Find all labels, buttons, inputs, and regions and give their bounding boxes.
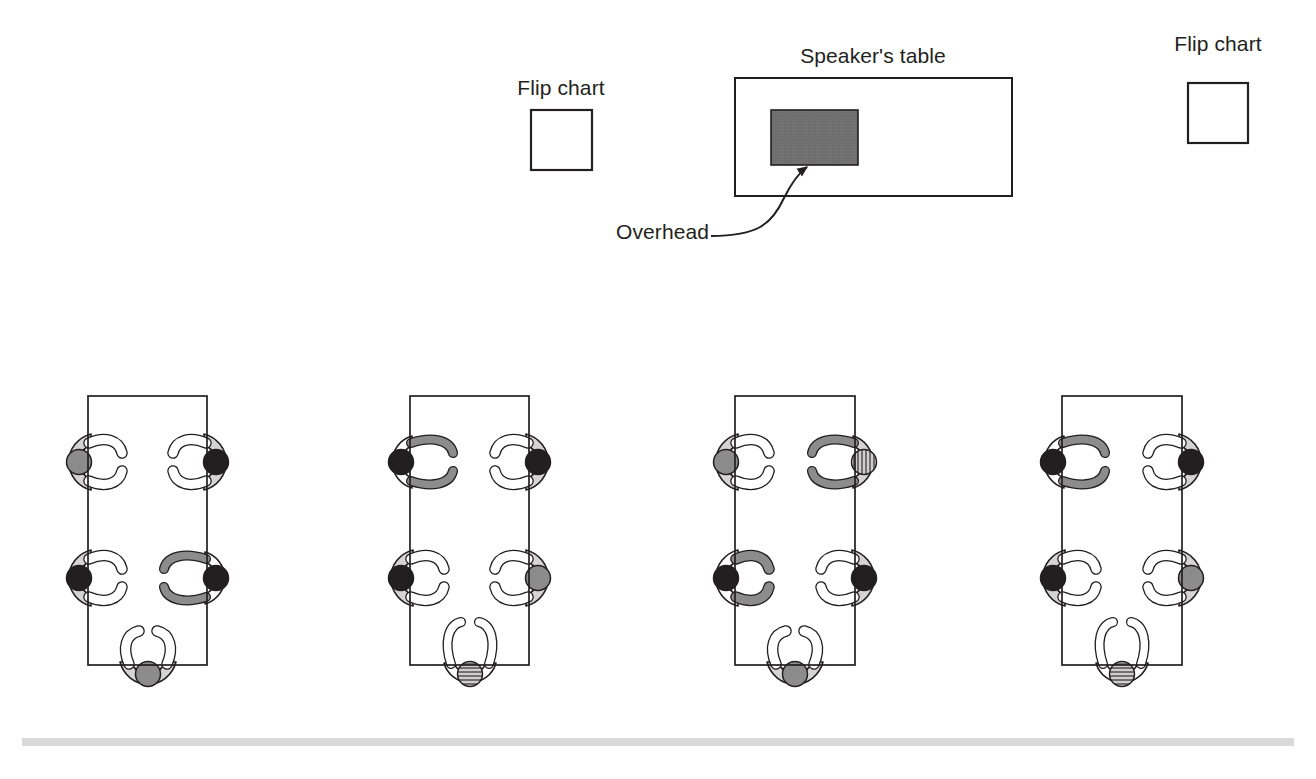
front-of-room-group	[531, 78, 1248, 236]
seat-bottom-head	[120, 631, 176, 687]
seat-left-top	[389, 436, 454, 488]
seated-person	[767, 631, 823, 687]
seated-person	[821, 550, 877, 606]
seated-person	[1041, 550, 1097, 606]
diagram-canvas: Flip chart Speaker's table Flip chart Ov…	[0, 0, 1316, 779]
delegate-table-group	[714, 396, 877, 687]
flip-chart-left-shape	[531, 110, 592, 170]
seat-right-bottom	[1148, 550, 1204, 606]
overhead-projector-shape	[771, 110, 858, 165]
seated-person	[389, 436, 454, 488]
seat-right-top	[173, 434, 229, 490]
seat-left-top	[714, 434, 770, 490]
seat-right-bottom	[821, 550, 877, 606]
seat-right-bottom	[164, 552, 229, 604]
seated-person	[173, 434, 229, 490]
seated-person	[67, 434, 123, 490]
seat-right-top	[495, 434, 551, 490]
seat-left-top	[67, 434, 123, 490]
seated-person	[1148, 550, 1204, 606]
seated-person	[495, 434, 551, 490]
seated-person	[495, 550, 551, 606]
seated-person	[1041, 436, 1106, 488]
delegate-table-group	[1041, 396, 1204, 687]
footer-rule	[22, 738, 1294, 746]
delegate-tables-group	[67, 396, 1204, 687]
seated-person	[714, 550, 770, 606]
seated-person	[714, 434, 770, 490]
seated-person	[389, 550, 445, 606]
seated-person	[444, 622, 496, 687]
seat-left-bottom	[67, 550, 123, 606]
diagram-vector-layer	[0, 0, 1316, 779]
delegate-table-group	[67, 396, 229, 687]
flip-chart-right-shape	[1188, 83, 1248, 143]
seat-bottom-head	[444, 622, 496, 687]
seat-bottom-head	[767, 631, 823, 687]
seated-person	[67, 550, 123, 606]
seated-person	[1096, 622, 1148, 687]
seat-left-bottom	[714, 550, 770, 606]
seat-right-top	[1148, 434, 1204, 490]
delegate-table-group	[389, 396, 551, 687]
seated-person	[812, 436, 877, 488]
seated-person	[164, 552, 229, 604]
seat-right-bottom	[495, 550, 551, 606]
seated-person	[1148, 434, 1204, 490]
seated-person	[120, 631, 176, 687]
seat-left-bottom	[1041, 550, 1097, 606]
seat-left-top	[1041, 436, 1106, 488]
seat-bottom-head	[1096, 622, 1148, 687]
seat-left-bottom	[389, 550, 445, 606]
seat-right-top	[812, 436, 877, 488]
